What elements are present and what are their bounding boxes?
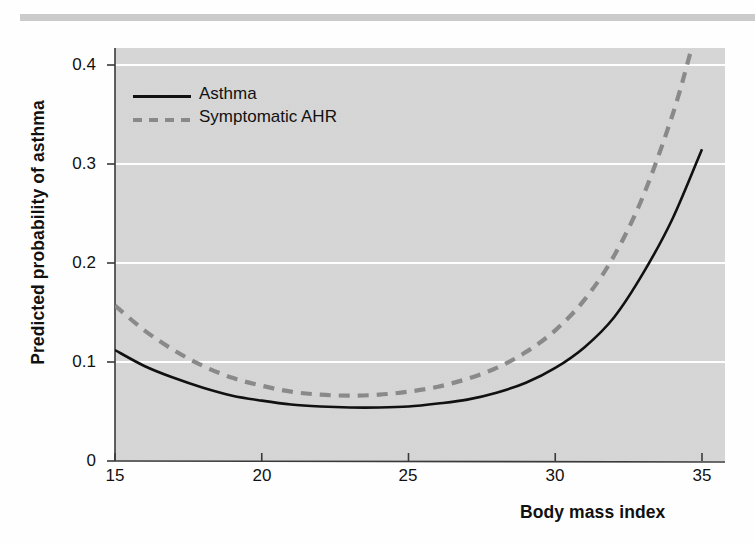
xtick-label-1: 20 (234, 466, 290, 486)
page-top-rule (20, 14, 755, 21)
xtick-label-3: 30 (527, 466, 583, 486)
legend-label-asthma: Asthma (199, 84, 257, 104)
legend-line-dashed-icon (133, 118, 191, 122)
xtick-label-4: 35 (674, 466, 730, 486)
xtick-label-0: 15 (87, 466, 143, 486)
figure-canvas: 0.4 0.3 0.2 0.1 0 15 20 25 30 35 Predict… (0, 0, 755, 543)
legend-line-solid-icon (133, 95, 191, 98)
legend-label-symptomatic-ahr: Symptomatic AHR (199, 107, 337, 127)
xtick-label-2: 25 (380, 466, 436, 486)
y-axis-title: Predicted probability of asthma (28, 33, 49, 433)
x-axis-title: Body mass index (520, 502, 665, 523)
